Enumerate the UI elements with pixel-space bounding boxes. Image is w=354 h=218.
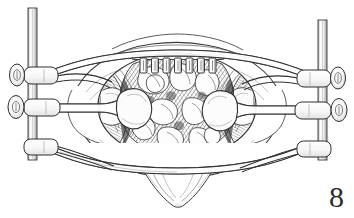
left-clamp-3[interactable] — [24, 139, 58, 155]
retractor-clip[interactable] — [198, 58, 205, 73]
retractor-clip[interactable] — [152, 58, 159, 73]
retractor-clip[interactable] — [209, 58, 216, 73]
right-clamp-1-block[interactable] — [297, 70, 331, 87]
retractor-clip[interactable] — [175, 58, 182, 73]
left-clamp-1[interactable] — [10, 64, 59, 86]
left-clamp-3-block[interactable] — [24, 139, 58, 155]
retractor-clip[interactable] — [186, 58, 193, 73]
left-retractor-blade[interactable] — [116, 89, 151, 129]
left-clamp-1-block[interactable] — [24, 67, 58, 84]
upper-clip-row[interactable] — [132, 55, 224, 73]
right-vertical-post[interactable] — [318, 20, 327, 160]
right-clamp-3-block[interactable] — [297, 141, 331, 157]
surgical-retractor-illustration — [0, 0, 354, 218]
right-clamp-1[interactable] — [297, 67, 346, 89]
right-clamp-3[interactable] — [297, 141, 331, 157]
right-retractor-blade[interactable] — [202, 91, 237, 131]
left-clamp-2-block[interactable] — [24, 99, 60, 116]
figure-number: 8 — [329, 182, 344, 212]
retractor-clip[interactable] — [163, 58, 170, 73]
retractor-clip[interactable] — [140, 58, 147, 73]
right-clamp-2-block[interactable] — [295, 102, 331, 119]
left-clamp-2[interactable] — [8, 96, 60, 119]
right-clamp-2[interactable] — [295, 99, 347, 122]
